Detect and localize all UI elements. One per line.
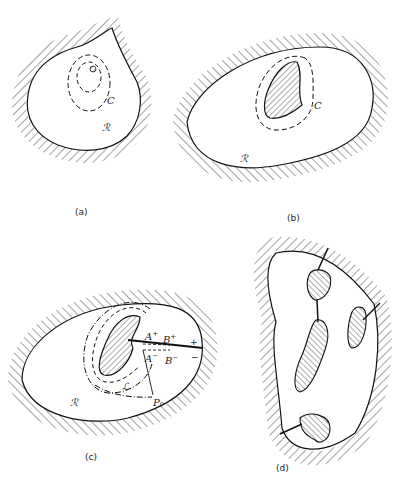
curve-label-c: C — [314, 100, 322, 111]
plus-sign: + — [190, 337, 198, 347]
curve-label-c: C — [107, 95, 115, 106]
region-label: ℛ — [102, 122, 111, 133]
minus-sign: − — [191, 352, 199, 362]
caption-b: (b) — [287, 213, 300, 223]
point-hole — [90, 66, 96, 72]
caption-c: (c) — [85, 452, 97, 462]
panel-a: C ℛ (a) — [19, 25, 144, 217]
panel-d: (d) — [261, 244, 385, 473]
caption-d: (d) — [276, 463, 289, 473]
region-label: ℛ — [240, 153, 249, 164]
figure-canvas: C ℛ (a) C ℛ (b) A+ B+ A− B− + − ℒ P₀ ℛ (… — [0, 0, 413, 481]
caption-a: (a) — [75, 207, 88, 217]
region-label: ℛ — [70, 397, 79, 408]
curve-label-L: ℒ — [122, 381, 130, 392]
point-label-p0: P₀ — [152, 397, 164, 408]
panel-c: A+ B+ A− B− + − ℒ P₀ ℛ (c) — [15, 297, 211, 462]
cut-2 — [317, 300, 318, 322]
panel-b: C ℛ (b) — [180, 40, 381, 223]
